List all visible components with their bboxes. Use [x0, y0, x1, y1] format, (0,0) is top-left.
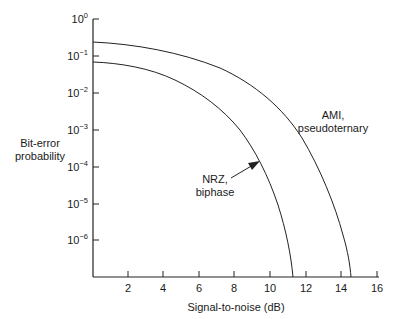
- y-axis-label-line1: Bit-error: [20, 137, 60, 149]
- y-axis-label-line2: probability: [15, 150, 66, 162]
- nrz-label-line2: biphase: [196, 186, 235, 198]
- x-tick-labels: 2 4 6 8 10 12 14 16: [125, 282, 383, 294]
- svg-text:8: 8: [231, 282, 237, 294]
- svg-text:14: 14: [335, 282, 347, 294]
- svg-text:6: 6: [196, 282, 202, 294]
- nrz-arrow-icon: [231, 161, 260, 178]
- ami-label-line1: AMI,: [322, 109, 345, 121]
- nrz-label-line1: NRZ,: [202, 173, 228, 185]
- y-tick-label: 10−3: [67, 122, 88, 136]
- y-tick-label: 10−6: [67, 232, 88, 246]
- y-tick-labels: 100 10−1 10−2 10−3 10−4 10−5 10−6: [67, 11, 88, 246]
- svg-text:10: 10: [264, 282, 276, 294]
- y-tick-label: 10−4: [67, 159, 88, 173]
- svg-text:16: 16: [371, 282, 383, 294]
- ber-chart: 100 10−1 10−2 10−3 10−4 10−5 10−6 2 4 6 …: [0, 0, 395, 319]
- x-ticks: [128, 271, 377, 277]
- svg-text:2: 2: [125, 282, 131, 294]
- y-tick-label: 10−5: [67, 196, 88, 210]
- y-tick-label: 10−2: [67, 85, 88, 99]
- y-ticks: [93, 19, 99, 240]
- ami-pseudoternary-curve: [93, 42, 351, 277]
- y-tick-label: 100: [72, 11, 88, 25]
- y-tick-label: 10−1: [67, 48, 88, 62]
- x-axis-label: Signal-to-noise (dB): [187, 301, 284, 313]
- svg-text:4: 4: [160, 282, 166, 294]
- svg-text:12: 12: [300, 282, 312, 294]
- ami-label-line2: pseudoternary: [298, 122, 369, 134]
